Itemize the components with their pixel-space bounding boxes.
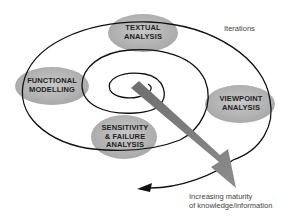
maturity-label-line: Increasing maturity: [189, 192, 272, 201]
node-functional-modelling: FUNCTIONAL MODELLING: [17, 77, 87, 94]
node-label-line: MODELLING: [17, 86, 87, 95]
spiral-diagram: TEXTUAL ANALYSIS FUNCTIONAL MODELLING VI…: [0, 0, 297, 224]
maturity-label-line: of knowledge/information: [189, 201, 272, 210]
maturity-label: Increasing maturity of knowledge/informa…: [189, 192, 272, 210]
node-label-line: ANALYSIS: [94, 141, 156, 150]
node-label-line: ANALYSIS: [210, 104, 272, 113]
node-sensitivity-failure-analysis: SENSITIVITY & FAILURE ANALYSIS: [94, 124, 156, 150]
iterations-label: Iterations: [224, 24, 255, 33]
node-viewpoint-analysis: VIEWPOINT ANALYSIS: [210, 95, 272, 112]
node-textual-analysis: TEXTUAL ANALYSIS: [113, 24, 173, 41]
node-label-line: ANALYSIS: [113, 33, 173, 42]
iteration-arrowhead: [137, 183, 152, 192]
